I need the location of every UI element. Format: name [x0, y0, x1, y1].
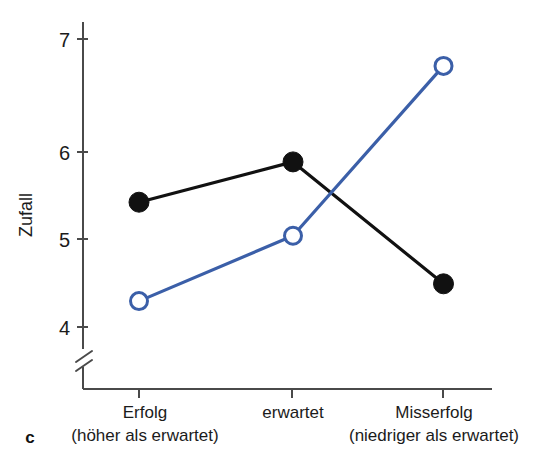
- data-point-blue-erwartet: [285, 227, 302, 244]
- data-point-black-erfolg: [129, 192, 149, 212]
- x-category-sublabel-erfolg: (höher als erwartet): [71, 426, 218, 445]
- x-category-sublabel-misserfolg: (niedriger als erwartet): [349, 426, 519, 445]
- x-category-label-erfolg: Erfolg: [123, 403, 167, 422]
- series-line-black: [139, 162, 444, 284]
- series-line-blue: [139, 66, 444, 301]
- panel-letter: c: [25, 428, 34, 447]
- x-category-label-misserfolg: Misserfolg: [395, 403, 472, 422]
- data-point-blue-erfolg: [131, 293, 148, 310]
- data-point-black-erwartet: [283, 152, 303, 172]
- y-tick-label-4: 4: [59, 317, 70, 339]
- figure-panel-c: 7 6 5 4 Zufall Erfolg (höher als erwarte…: [0, 0, 537, 461]
- y-tick-label-7: 7: [59, 29, 70, 51]
- y-tick-label-5: 5: [59, 229, 70, 251]
- x-category-label-erwartet: erwartet: [262, 403, 324, 422]
- y-axis-title: Zufall: [16, 193, 36, 237]
- y-tick-label-6: 6: [59, 142, 70, 164]
- line-chart: 7 6 5 4 Zufall Erfolg (höher als erwarte…: [0, 0, 537, 461]
- axis-break-slash-lower: [76, 351, 92, 362]
- data-point-black-misserfolg: [434, 274, 454, 294]
- data-point-blue-misserfolg: [435, 57, 452, 74]
